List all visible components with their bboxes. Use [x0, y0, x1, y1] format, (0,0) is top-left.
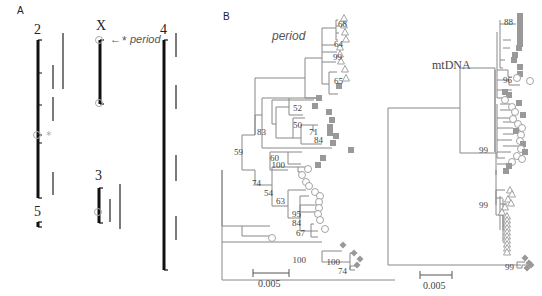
bootstrap-value: 74 [338, 266, 348, 276]
bootstrap-value: 68 [338, 19, 348, 29]
square-icon [516, 100, 522, 106]
bootstrap-value: 99 [479, 200, 489, 210]
square-icon [516, 45, 522, 51]
bootstrap-value: 64 [334, 39, 344, 49]
triangle-icon [343, 75, 350, 82]
panel-b-label: B [223, 11, 230, 22]
circle-icon [514, 75, 521, 82]
diamond-icon [354, 262, 361, 269]
chromosome-label: 3 [95, 168, 102, 183]
bootstrap-value: 88 [504, 17, 514, 27]
square-icon [520, 112, 526, 118]
chromosome-X: X [96, 18, 107, 107]
chromosome-2: 2* [34, 22, 53, 198]
arrow-left-icon: ← [110, 33, 121, 45]
bootstrap-value: 54 [264, 188, 274, 198]
square-icon [327, 124, 333, 130]
square-icon [320, 155, 326, 161]
asterisk-icon: * [122, 34, 127, 48]
diamond-icon [522, 255, 529, 262]
circle-icon [519, 125, 526, 132]
circle-icon [527, 78, 534, 85]
period-annotation: ← * period [110, 33, 161, 48]
bootstrap-value: 63 [276, 196, 286, 206]
diamond-icon [351, 250, 358, 257]
mtdna-scale-bar: 0.005 [420, 271, 452, 291]
asterisk-icon: * [46, 129, 52, 142]
bootstrap-value: 100 [293, 255, 307, 265]
period-tree [222, 15, 395, 281]
bootstrap-value: 83 [257, 127, 267, 137]
circle-icon [269, 235, 276, 242]
period-scale-label: 0.005 [258, 278, 281, 289]
mtdna-scale-label: 0.005 [423, 280, 446, 291]
square-icon [333, 133, 339, 139]
circle-icon [306, 183, 313, 190]
triangle-icon [342, 29, 349, 36]
mtdna-tree [388, 13, 535, 272]
square-icon [316, 95, 322, 101]
square-icon [327, 130, 333, 136]
bootstrap-value: 52 [293, 103, 302, 113]
circle-icon [322, 226, 329, 233]
circle-icon [519, 156, 526, 163]
panel-b: B period mtDNA 6864996552507184836059100… [222, 11, 535, 291]
bootstrap-value: 100 [272, 160, 286, 170]
period-gene-label: period [129, 33, 161, 45]
period-tree-title: period [271, 29, 306, 43]
tree-branch [222, 135, 270, 226]
tree-branch [255, 28, 338, 135]
bootstrap-value: 67 [296, 228, 306, 238]
mapped-segments [53, 33, 176, 240]
circle-icon [305, 166, 312, 173]
bootstrap-value: 74 [252, 178, 262, 188]
chromosome-5: 5 [34, 204, 42, 227]
panel-a-label: A [17, 5, 24, 16]
circle-icon [502, 97, 509, 104]
circle-icon [317, 217, 324, 224]
chromosome-label: 2 [34, 22, 41, 37]
bootstrap-value: 99 [333, 52, 343, 62]
bootstrap-value: 50 [293, 120, 303, 130]
bootstrap-values: 6864996552507184836059100745463958467100… [234, 17, 515, 276]
diamond-icon [340, 242, 347, 249]
square-icon [511, 57, 517, 63]
circle-icon [299, 172, 306, 179]
square-icon [522, 149, 528, 155]
chromosome-map: 2*X435 [34, 18, 169, 270]
mtdna-tree-title: mtDNA [432, 58, 471, 72]
triangle-icon [342, 66, 349, 73]
chromosome-label: 5 [34, 204, 41, 219]
tree-branch [242, 226, 272, 236]
square-icon [312, 103, 318, 109]
diamond-icon [357, 256, 364, 263]
square-icon [517, 64, 523, 70]
square-icon [503, 168, 509, 174]
tree-branch [495, 68, 496, 175]
figure: A 2*X435 ← * period B period mtDNA 68649… [0, 0, 542, 296]
chromosome-3: 3 [95, 168, 104, 223]
square-icon [348, 147, 354, 153]
chromosome-label: 4 [160, 22, 167, 37]
square-icon [330, 140, 336, 146]
bootstrap-value: 84 [292, 218, 302, 228]
square-icon [329, 117, 335, 123]
square-icon [326, 109, 332, 115]
bootstrap-value: 99 [505, 262, 515, 272]
panel-a: A 2*X435 ← * period [17, 5, 176, 270]
bootstrap-value: 84 [314, 135, 324, 145]
square-icon [315, 162, 321, 168]
bootstrap-value: 96 [503, 75, 513, 85]
bootstrap-value: 99 [479, 145, 489, 155]
triangle-icon [343, 36, 350, 43]
chromosome-4: 4 [160, 22, 168, 270]
circle-icon [512, 109, 519, 116]
chromosome-label: X [96, 18, 106, 33]
bootstrap-value: 59 [234, 147, 244, 157]
period-scale-bar: 0.005 [253, 269, 289, 289]
bootstrap-value: 65 [334, 76, 344, 86]
